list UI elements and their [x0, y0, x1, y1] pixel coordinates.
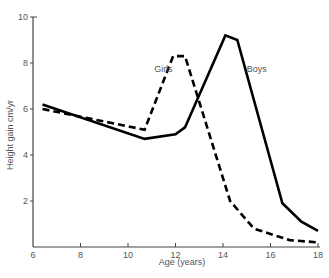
y-tick-label: 8 — [23, 58, 28, 68]
x-axis-label: Age (years) — [159, 257, 206, 267]
height-velocity-chart: 681012141618246810 GirlsBoys Age (years)… — [0, 0, 329, 278]
y-tick-label: 6 — [23, 104, 28, 114]
y-tick-label: 10 — [18, 12, 28, 22]
boys-label: Boys — [247, 64, 268, 74]
boys-line — [43, 35, 319, 231]
x-tick-label: 10 — [123, 250, 133, 260]
x-tick-label: 14 — [218, 250, 228, 260]
x-tick-label: 18 — [313, 250, 323, 260]
x-tick-label: 16 — [265, 250, 275, 260]
x-tick-label: 6 — [30, 250, 35, 260]
y-tick-label: 4 — [23, 150, 28, 160]
x-tick-label: 8 — [78, 250, 83, 260]
girls-label: Girls — [154, 64, 173, 74]
y-axis-label: Height gain cm/yr — [5, 100, 15, 170]
girls-line — [43, 56, 319, 242]
y-tick-label: 2 — [23, 196, 28, 206]
data-lines — [43, 35, 319, 242]
